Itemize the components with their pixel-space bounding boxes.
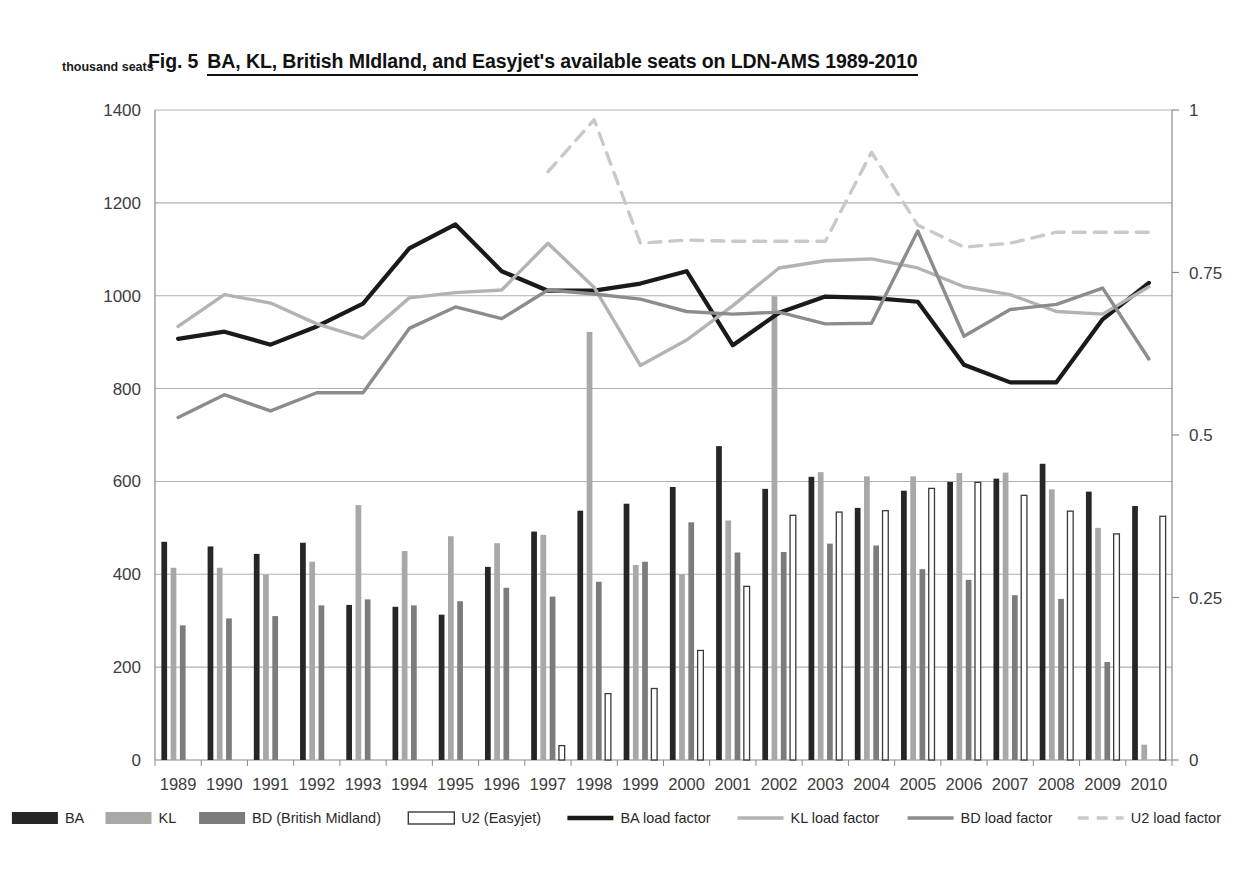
bar-group-2005 [901, 476, 934, 760]
bar-group-2006 [947, 473, 980, 760]
bar-bd-2000[interactable] [688, 522, 694, 760]
bar-kl-1995[interactable] [448, 536, 454, 760]
bar-u2-2009[interactable] [1114, 534, 1120, 760]
bar-u2-1999[interactable] [651, 689, 657, 761]
bar-bd-2006[interactable] [966, 580, 972, 760]
bar-ba-2000[interactable] [670, 487, 676, 760]
bar-bd-2001[interactable] [735, 552, 741, 760]
bar-ba-1990[interactable] [208, 546, 214, 760]
bar-u2-2003[interactable] [836, 512, 842, 760]
bar-ba-1994[interactable] [393, 607, 399, 760]
bar-bd-2008[interactable] [1058, 599, 1064, 760]
bar-u2-2010[interactable] [1160, 516, 1166, 760]
bar-ba-1997[interactable] [531, 532, 537, 760]
bar-kl-2005[interactable] [910, 476, 916, 760]
bar-ba-1992[interactable] [300, 543, 306, 760]
bar-u2-1998[interactable] [605, 694, 611, 760]
legend-item-bd-british-midland-[interactable]: BD (British Midland) [199, 810, 381, 826]
bar-bd-2002[interactable] [781, 552, 787, 760]
legend-label: KL load factor [791, 810, 880, 826]
x-tick-label: 2010 [1131, 775, 1168, 793]
bar-ba-2007[interactable] [993, 479, 999, 760]
bar-kl-1990[interactable] [217, 568, 223, 760]
x-tick-label: 1998 [576, 775, 613, 793]
bar-u2-2001[interactable] [744, 586, 750, 760]
x-tick-label: 2009 [1084, 775, 1121, 793]
bar-kl-2000[interactable] [679, 574, 685, 760]
bar-kl-1993[interactable] [356, 505, 362, 760]
bar-u2-2008[interactable] [1067, 511, 1073, 760]
bar-kl-2006[interactable] [956, 473, 962, 760]
bar-kl-1997[interactable] [540, 535, 546, 760]
bar-ba-2001[interactable] [716, 446, 722, 760]
legend-item-u2-easyjet-[interactable]: U2 (Easyjet) [408, 810, 541, 826]
bar-bd-1993[interactable] [365, 599, 371, 760]
bar-ba-2004[interactable] [855, 508, 861, 760]
legend-item-kl-load-factor[interactable]: KL load factor [738, 810, 880, 826]
line-u2-load-factor[interactable] [548, 120, 1149, 247]
bar-kl-2010[interactable] [1141, 745, 1147, 760]
bar-kl-2008[interactable] [1049, 489, 1055, 760]
bar-ba-2008[interactable] [1040, 464, 1046, 760]
bar-u2-1997[interactable] [559, 746, 565, 760]
line-ba-load-factor[interactable] [178, 224, 1149, 382]
y-tick-label: 1000 [103, 287, 141, 306]
bar-ba-1993[interactable] [346, 605, 352, 760]
bar-bd-1997[interactable] [550, 597, 556, 760]
bar-kl-2009[interactable] [1095, 528, 1101, 760]
bar-bd-2007[interactable] [1012, 595, 1018, 760]
bar-bd-1989[interactable] [180, 625, 186, 760]
bar-kl-1992[interactable] [309, 562, 315, 760]
bar-bd-1992[interactable] [319, 605, 325, 760]
bar-ba-1995[interactable] [439, 615, 445, 760]
bar-bd-2005[interactable] [920, 569, 926, 760]
legend-item-u2-load-factor[interactable]: U2 load factor [1078, 810, 1221, 826]
bar-u2-2007[interactable] [1021, 495, 1027, 760]
bar-bd-1995[interactable] [457, 601, 463, 760]
bar-kl-2007[interactable] [1003, 473, 1009, 760]
legend-label: KL [159, 810, 177, 826]
bars-layer [161, 296, 1165, 760]
bar-u2-2006[interactable] [975, 482, 981, 760]
bar-bd-1998[interactable] [596, 582, 602, 760]
bar-bd-1994[interactable] [411, 605, 417, 760]
bar-kl-1996[interactable] [494, 543, 500, 760]
bar-ba-1996[interactable] [485, 567, 491, 760]
bar-kl-1989[interactable] [171, 568, 177, 760]
bar-ba-1989[interactable] [161, 542, 167, 760]
bar-kl-2003[interactable] [818, 472, 824, 760]
bar-bd-1996[interactable] [503, 588, 509, 760]
bar-kl-2001[interactable] [725, 520, 731, 760]
bar-kl-1994[interactable] [402, 551, 408, 760]
bar-kl-2004[interactable] [864, 476, 870, 760]
bar-kl-1999[interactable] [633, 565, 639, 760]
y-tick-label: 200 [113, 658, 141, 677]
x-tick-label: 2004 [853, 775, 890, 793]
bar-u2-2005[interactable] [929, 488, 935, 760]
bar-bd-2009[interactable] [1104, 662, 1110, 760]
bar-kl-1991[interactable] [263, 575, 269, 760]
bar-bd-1991[interactable] [272, 616, 278, 760]
bar-bd-2003[interactable] [827, 544, 833, 760]
legend-item-ba[interactable]: BA [12, 810, 85, 826]
bar-bd-1990[interactable] [226, 618, 232, 760]
bar-kl-1998[interactable] [587, 332, 593, 760]
bar-kl-2002[interactable] [772, 296, 778, 760]
legend-item-ba-load-factor[interactable]: BA load factor [567, 810, 710, 826]
bar-ba-2005[interactable] [901, 491, 907, 760]
bar-u2-2002[interactable] [790, 515, 796, 760]
bar-bd-2004[interactable] [873, 546, 879, 761]
legend-item-bd-load-factor[interactable]: BD load factor [908, 810, 1053, 826]
bar-u2-2004[interactable] [883, 511, 889, 760]
legend-item-kl[interactable]: KL [106, 810, 177, 826]
bar-ba-2009[interactable] [1086, 492, 1092, 760]
bar-ba-1998[interactable] [577, 511, 583, 760]
bar-ba-2010[interactable] [1132, 506, 1138, 760]
bar-ba-2002[interactable] [762, 489, 768, 760]
bar-ba-2006[interactable] [947, 482, 953, 760]
bar-ba-1999[interactable] [624, 504, 630, 760]
bar-bd-1999[interactable] [642, 562, 648, 760]
bar-u2-2000[interactable] [698, 650, 704, 760]
bar-ba-1991[interactable] [254, 554, 260, 760]
bar-ba-2003[interactable] [809, 477, 815, 760]
